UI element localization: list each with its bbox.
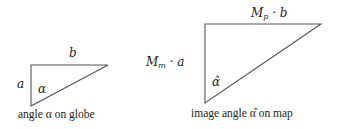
map-caption: image angle α̂ on map <box>191 108 293 120</box>
side-mm-a-label: Mm · a <box>146 56 185 70</box>
alpha-angle-label: α <box>38 83 46 95</box>
globe-caption: angle α on globe <box>18 109 95 121</box>
side-b-label: b <box>69 47 77 59</box>
side-mp-b-label: Mp · b <box>251 7 288 21</box>
alpha-hat-angle-label: α̂ <box>212 76 220 88</box>
map-triangle <box>205 24 321 103</box>
side-a-label: a <box>17 78 24 90</box>
